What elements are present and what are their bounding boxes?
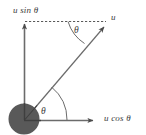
label-vertical-component: u sin θ: [13, 6, 38, 15]
label-angle-bottom: θ: [41, 107, 46, 117]
projectile-vector-diagram: u sin θ u u cos θ θ θ: [0, 0, 146, 135]
label-horizontal-component: u cos θ: [104, 114, 131, 123]
angle-arc-bottom: [52, 87, 68, 120]
label-angle-top: θ: [74, 26, 79, 36]
label-resultant-vector: u: [111, 13, 116, 22]
